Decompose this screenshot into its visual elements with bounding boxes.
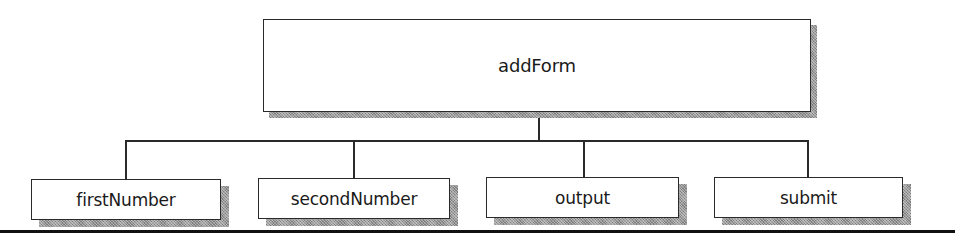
child-node-label: firstNumber bbox=[76, 190, 175, 210]
child-node-output: output bbox=[486, 177, 679, 218]
connector-drop-firstnumber bbox=[125, 140, 127, 179]
root-node-addform: addForm bbox=[263, 19, 811, 112]
child-node-label: output bbox=[555, 188, 610, 208]
bottom-divider bbox=[0, 230, 955, 233]
child-node-secondnumber: secondNumber bbox=[258, 178, 450, 219]
child-node-firstnumber: firstNumber bbox=[31, 179, 221, 220]
tree-diagram: addForm firstNumber secondNumber output … bbox=[0, 0, 963, 243]
child-node-submit: submit bbox=[714, 177, 903, 218]
root-node-label: addForm bbox=[498, 55, 576, 76]
connector-drop-secondnumber bbox=[353, 140, 355, 178]
connector-drop-submit bbox=[807, 140, 809, 177]
child-node-label: secondNumber bbox=[291, 189, 418, 209]
connector-bus bbox=[125, 140, 809, 142]
child-node-label: submit bbox=[780, 188, 837, 208]
connector-drop-output bbox=[583, 140, 585, 177]
